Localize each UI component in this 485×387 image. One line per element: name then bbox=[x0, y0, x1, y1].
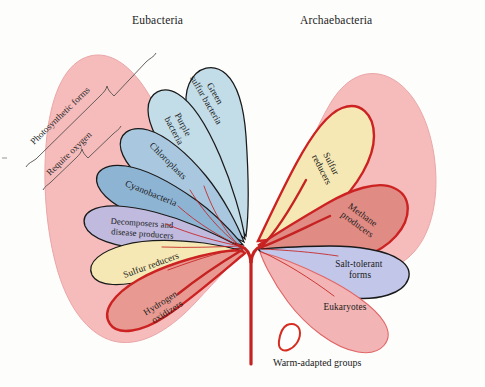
tree-diagram-svg: Green sulfur bacteria Purple bacteria Ch… bbox=[0, 0, 485, 387]
warm-adapted-swatch-icon bbox=[279, 324, 300, 351]
key-label-warm-adapted-groups: Warm-adapted groups bbox=[273, 357, 361, 368]
phylogenetic-tree-figure: Eubacteria Archaebacteria Green sulfur b… bbox=[0, 0, 485, 387]
petal-label-eukaryotes: Eukaryotes bbox=[324, 302, 367, 312]
